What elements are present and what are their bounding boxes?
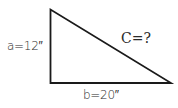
- side-b-label: b=20″: [83, 89, 119, 101]
- hypotenuse-label: C=?: [121, 31, 151, 45]
- side-a-label: a=12″: [7, 40, 42, 52]
- right-triangle-diagram: a=12″ C=? b=20″: [0, 0, 178, 108]
- right-triangle-shape: [51, 10, 172, 84]
